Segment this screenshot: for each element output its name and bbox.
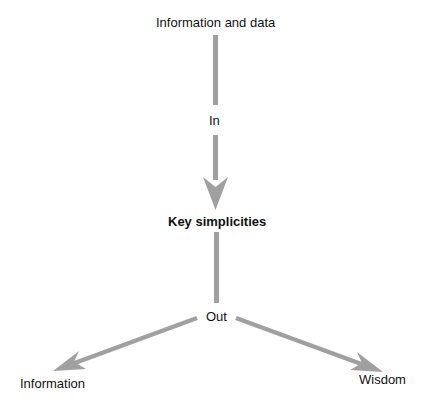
arrows-layer (0, 0, 421, 406)
left-arrow-shaft (72, 318, 197, 364)
out-label: Out (206, 310, 227, 323)
output-shaft (214, 232, 219, 303)
output-right-label: Wisdom (359, 373, 406, 386)
in-label: In (209, 114, 220, 127)
down-arrowhead-icon (203, 177, 228, 210)
source-label: Information and data (156, 16, 275, 29)
output-left-label: Information (20, 377, 85, 390)
center-label: Key simplicities (168, 215, 266, 228)
right-arrow-shaft (236, 318, 364, 365)
input-shaft-lower (213, 135, 218, 180)
flow-diagram: Information and data In Key simplicities… (0, 0, 421, 406)
input-shaft-upper (213, 35, 218, 105)
